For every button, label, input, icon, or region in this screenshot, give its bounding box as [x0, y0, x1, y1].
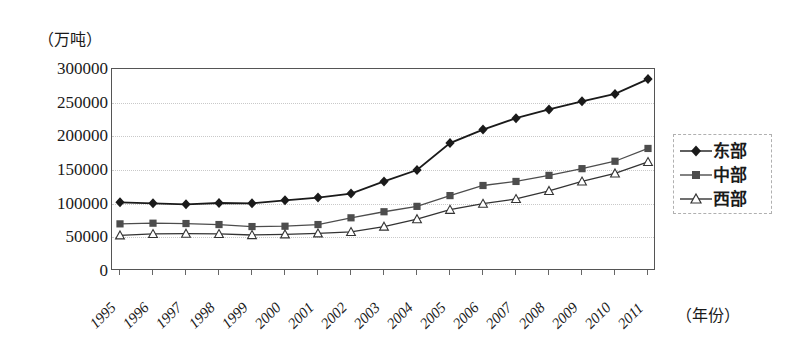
x-axis-tick-mark: [515, 270, 516, 275]
x-axis-tick-2008: 2008: [516, 300, 548, 332]
x-axis-tick-mark: [119, 270, 120, 275]
chart-figure: （万吨） 30000025000020000015000010000050000…: [0, 0, 785, 354]
x-axis-tick-2001: 2001: [285, 300, 317, 332]
x-axis-tick-2011: 2011: [615, 301, 646, 332]
x-axis-tick-mark: [152, 270, 153, 275]
x-axis-tick-2007: 2007: [483, 300, 515, 332]
filled-square-marker-icon: [679, 165, 713, 185]
x-axis-tick-mark: [251, 270, 252, 275]
x-axis-tick-2009: 2009: [549, 300, 581, 332]
x-axis-tick-mark: [284, 270, 285, 275]
x-axis-tick-1998: 1998: [186, 300, 218, 332]
legend-item-central: 中部: [679, 163, 766, 187]
x-axis-tick-mark: [218, 270, 219, 275]
x-axis-tick-mark: [548, 270, 549, 275]
legend-label-west: 西部: [713, 191, 746, 208]
x-axis-tick-mark: [185, 270, 186, 275]
x-axis-tick-mark: [350, 270, 351, 275]
legend-item-east: 东部: [679, 139, 766, 163]
x-axis-tick-2003: 2003: [351, 300, 383, 332]
x-axis-tick-mark: [482, 270, 483, 275]
legend-label-central: 中部: [713, 167, 746, 184]
x-axis-tick-mark: [317, 270, 318, 275]
x-axis-tick-mark: [581, 270, 582, 275]
x-axis-tick-2006: 2006: [450, 300, 482, 332]
x-axis-tick-2002: 2002: [318, 300, 350, 332]
open-triangle-marker-icon: [679, 189, 713, 209]
x-axis-tick-2005: 2005: [417, 300, 449, 332]
x-axis-tick-1999: 1999: [219, 300, 251, 332]
x-axis-tick-mark: [614, 270, 615, 275]
x-axis-tick-mark: [449, 270, 450, 275]
x-axis-tick-mark: [416, 270, 417, 275]
x-axis-tick-mark: [647, 270, 648, 275]
legend: 东部 中部 西部: [673, 134, 772, 214]
x-axis-tick-1995: 1995: [87, 300, 119, 332]
legend-label-east: 东部: [713, 143, 746, 160]
legend-item-west: 西部: [679, 187, 766, 211]
x-axis-tick-2000: 2000: [252, 300, 284, 332]
filled-diamond-marker-icon: [679, 141, 713, 161]
x-axis-tick-1996: 1996: [120, 300, 152, 332]
x-axis-tick-mark: [383, 270, 384, 275]
x-axis-unit-label: （年份）: [676, 302, 740, 326]
x-axis-tick-labels: 1995199619971998199920002001200220032004…: [0, 0, 785, 354]
x-axis-tick-2010: 2010: [582, 300, 614, 332]
x-axis-tick-1997: 1997: [153, 300, 185, 332]
x-axis-tick-2004: 2004: [384, 300, 416, 332]
